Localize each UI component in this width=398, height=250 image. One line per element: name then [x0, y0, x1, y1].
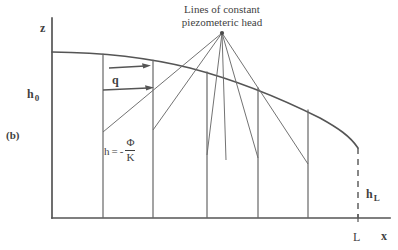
formula-minus: - [120, 146, 124, 157]
upstream-head-symbol: h [27, 87, 34, 101]
downstream-head-symbol: h [366, 187, 373, 201]
panel-label: (b) [6, 130, 19, 141]
formula-equals: = [112, 146, 118, 157]
z-axis-label: z [40, 22, 45, 34]
constant-head-line [222, 33, 308, 164]
downstream-head-subscript: L [373, 193, 380, 203]
phreatic-surface-curve [52, 52, 358, 148]
head-formula: h = - Φ K [104, 138, 135, 164]
flux-label: q [112, 74, 119, 86]
constant-head-line [222, 33, 258, 158]
formula-denominator: K [125, 152, 135, 164]
flux-arrow-lower-shaft [103, 88, 148, 90]
flux-arrow-upper-shaft [109, 66, 145, 68]
constant-head-line [222, 33, 226, 160]
flux-arrows-group [103, 63, 154, 90]
diagram-title-line-1: Lines of constant [152, 3, 292, 16]
groundwater-flow-diagram [0, 0, 398, 250]
upstream-head-label: h0 [27, 88, 39, 103]
diagram-title-line-2: piezometeric head [152, 16, 292, 29]
upstream-head-subscript: 0 [34, 93, 40, 103]
fan-apex-point [220, 31, 224, 35]
formula-numerator: Φ [125, 137, 135, 149]
formula-lhs: h [104, 146, 110, 157]
x-axis-label: x [381, 230, 387, 242]
formula-fraction: Φ K [125, 137, 135, 163]
flux-arrow-upper-head [142, 63, 151, 68]
diagram-title: Lines of constant piezometeric head [152, 3, 292, 29]
downstream-head-label: hL [366, 188, 380, 203]
length-tick-label: L [353, 231, 360, 243]
